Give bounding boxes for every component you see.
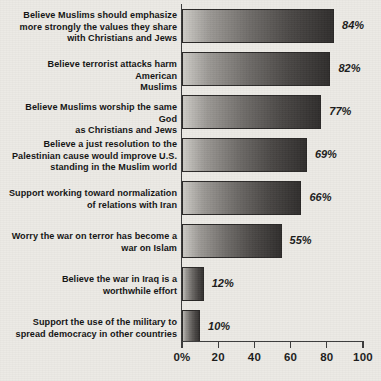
category-label: Worry the war on terror has become a war… bbox=[5, 231, 177, 254]
category-label: Support working toward normalization of … bbox=[5, 188, 177, 211]
x-axis-tick-label: 80 bbox=[320, 351, 333, 363]
category-label-line: Believe Muslims worship the same God bbox=[5, 102, 177, 125]
y-axis-line bbox=[181, 4, 182, 342]
category-label-line: Believe Muslims should emphasize bbox=[5, 10, 177, 22]
bar-value-label: 82% bbox=[338, 62, 360, 74]
category-label-line: Believe a just resolution to the bbox=[5, 139, 177, 151]
bar[interactable] bbox=[182, 138, 307, 172]
x-axis-tick-label: 0% bbox=[173, 351, 190, 363]
category-label-line: Support the use of the military to bbox=[5, 317, 177, 329]
x-axis-tick bbox=[218, 342, 219, 348]
category-label: Believe terrorist attacks harm American … bbox=[5, 59, 177, 94]
x-axis-line bbox=[182, 341, 364, 342]
category-label-line: Worry the war on terror has become a bbox=[5, 231, 177, 243]
category-label-line: more strongly the values they share bbox=[5, 22, 177, 34]
bar[interactable] bbox=[182, 267, 204, 301]
category-label-line: worthwhile effort bbox=[5, 286, 177, 298]
category-label-line: standing in the Muslim world bbox=[5, 162, 177, 174]
x-axis-tick-label: 60 bbox=[284, 351, 297, 363]
x-axis-tick-label: 100 bbox=[353, 351, 373, 363]
bar-value-label: 10% bbox=[208, 320, 230, 332]
bar[interactable] bbox=[182, 52, 330, 86]
horizontal-bar-chart: Believe Muslims should emphasize more st… bbox=[0, 0, 381, 381]
category-label-line: of relations with Iran bbox=[5, 200, 177, 212]
bar[interactable] bbox=[182, 224, 282, 258]
category-label-line: spread democracy in other countries bbox=[5, 329, 177, 341]
bar[interactable] bbox=[182, 9, 334, 43]
x-axis-tick-label: 40 bbox=[248, 351, 261, 363]
category-label-line: Support working toward normalization bbox=[5, 188, 177, 200]
bar-value-label: 69% bbox=[315, 148, 337, 160]
category-label-line: Muslims bbox=[5, 82, 177, 94]
bar[interactable] bbox=[182, 310, 200, 342]
x-axis-tick bbox=[362, 342, 363, 348]
category-label-line: as Christians and Jews bbox=[5, 125, 177, 137]
bar-value-label: 77% bbox=[329, 105, 351, 117]
category-label: Support the use of the military to sprea… bbox=[5, 317, 177, 340]
x-axis-tick bbox=[254, 342, 255, 348]
bar[interactable] bbox=[182, 181, 301, 215]
x-axis-tick bbox=[326, 342, 327, 348]
category-label: Believe the war in Iraq is a worthwhile … bbox=[5, 274, 177, 297]
category-label: Believe a just resolution to the Palesti… bbox=[5, 139, 177, 174]
bar-value-label: 55% bbox=[290, 234, 312, 246]
x-axis-tick bbox=[181, 342, 182, 348]
bar-value-label: 66% bbox=[309, 191, 331, 203]
category-label-line: war on Islam bbox=[5, 243, 177, 255]
category-label-line: Believe terrorist attacks harm American bbox=[5, 59, 177, 82]
category-label-line: Palestinian cause would improve U.S. bbox=[5, 151, 177, 163]
x-axis-tick bbox=[290, 342, 291, 348]
bar-value-label: 12% bbox=[212, 277, 234, 289]
category-label-line: with Christians and Jews bbox=[5, 33, 177, 45]
category-label: Believe Muslims worship the same God as … bbox=[5, 102, 177, 137]
bar[interactable] bbox=[182, 95, 321, 129]
category-label: Believe Muslims should emphasize more st… bbox=[5, 10, 177, 45]
x-axis-tick-label: 20 bbox=[212, 351, 225, 363]
category-label-line: Believe the war in Iraq is a bbox=[5, 274, 177, 286]
bar-value-label: 84% bbox=[342, 19, 364, 31]
